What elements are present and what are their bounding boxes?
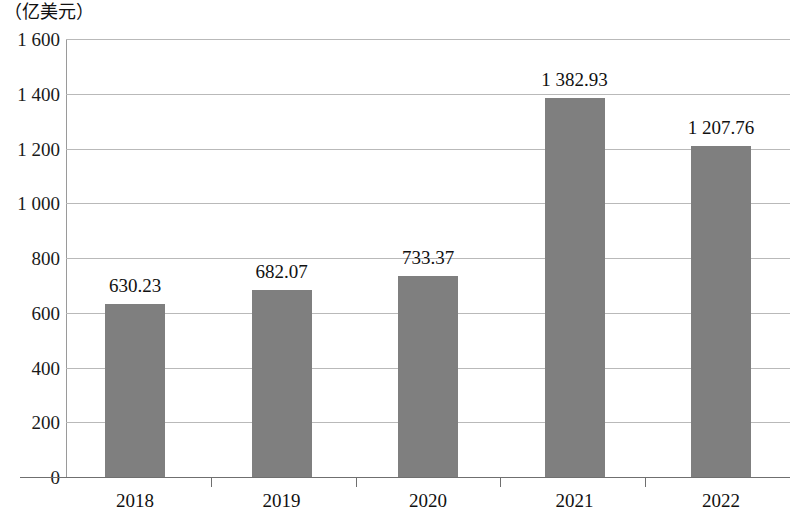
y-axis-tick-label: 800 [2,249,60,268]
x-axis-tick-mark [356,478,357,487]
gridline [66,149,790,150]
gridline [66,94,790,95]
y-axis-tick-label: 1 200 [2,140,60,159]
y-axis-tick-label: 1 000 [2,194,60,213]
y-axis-tick-label: 1 400 [2,85,60,104]
bar-value-label-2020: 733.37 [353,248,503,267]
x-axis-tick-mark [645,478,646,487]
bar-2018 [105,304,165,477]
x-axis-label-2022: 2022 [661,491,781,511]
bar-value-label-2022: 1 207.76 [646,118,793,137]
y-axis-tick-label: 1 600 [2,30,60,49]
y-axis-tick-label: 400 [2,359,60,378]
y-axis-tick-label: 200 [2,413,60,432]
bar-2021 [545,98,605,477]
bar-value-label-2019: 682.07 [207,262,357,281]
gridline [66,39,790,40]
x-axis-tick-mark [500,478,501,487]
x-axis-line [20,477,790,478]
x-axis-label-2019: 2019 [222,491,342,511]
bar-value-label-2018: 630.23 [60,276,210,295]
x-axis-label-2020: 2020 [368,491,488,511]
gridline [66,203,790,204]
x-axis-label-2018: 2018 [75,491,195,511]
bar-chart: （亿美元） 1 6001 4001 2001 0008006004002000 … [0,0,793,515]
y-axis-tick-label: 600 [2,304,60,323]
x-axis-label-2021: 2021 [515,491,635,511]
y-axis-tick-labels: 1 6001 4001 2001 0008006004002000 [0,0,60,515]
bar-2019 [252,290,312,477]
bar-2022 [691,146,751,477]
bar-2020 [398,276,458,477]
x-axis-tick-mark [211,478,212,487]
bar-value-label-2021: 1 382.93 [500,70,650,89]
